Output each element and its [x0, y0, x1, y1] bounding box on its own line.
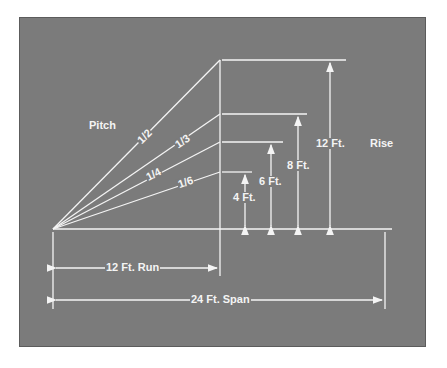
slope-1-2	[53, 60, 220, 229]
rise-label-6: 6 Ft.	[258, 176, 283, 187]
run-label: 12 Ft. Run	[105, 262, 160, 273]
pitch-title: Pitch	[89, 120, 116, 131]
slope-1-3	[53, 114, 220, 229]
rise-label-4: 4 Ft.	[232, 192, 257, 203]
roof-pitch-diagram	[0, 0, 447, 368]
rise-title: Rise	[370, 138, 393, 149]
slope-1-4	[53, 142, 220, 229]
rise-label-12: 12 Ft.	[315, 138, 346, 149]
slope-1-6	[53, 172, 220, 229]
rise-label-8: 8 Ft.	[286, 160, 311, 171]
span-label: 24 Ft. Span	[190, 294, 251, 305]
